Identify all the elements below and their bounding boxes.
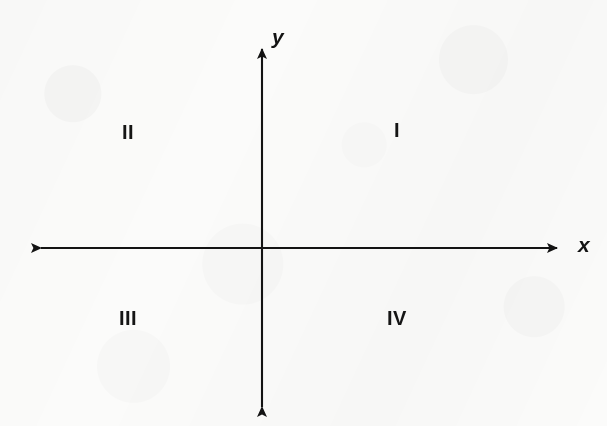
coordinate-plane-figure: y x I II III IV bbox=[0, 0, 607, 426]
quadrant-label-four: IV bbox=[387, 308, 407, 328]
quadrant-label-three: III bbox=[119, 308, 137, 328]
quadrant-label-two: II bbox=[122, 122, 134, 142]
y-axis-label: y bbox=[272, 26, 284, 47]
quadrant-label-one: I bbox=[394, 120, 400, 140]
x-axis-label: x bbox=[578, 234, 590, 255]
axes-drawing bbox=[0, 0, 607, 426]
